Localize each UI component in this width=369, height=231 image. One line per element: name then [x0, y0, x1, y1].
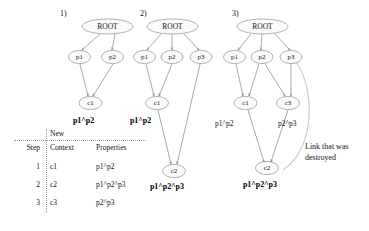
- node-p2[interactable]: p2: [161, 50, 183, 63]
- edge-root-p3: [184, 34, 199, 50]
- node-c1-label: c1: [242, 99, 249, 107]
- edge-root-p1: [147, 34, 161, 50]
- panel-2-c1-properties: p1^p2: [130, 116, 151, 125]
- panel-1-graph: ROOT p1 p2 c1: [69, 19, 134, 110]
- node-p1[interactable]: p1: [69, 50, 91, 63]
- node-root-label: ROOT: [162, 22, 183, 31]
- node-c3[interactable]: c3: [277, 96, 300, 109]
- table-cell-context: c1: [50, 162, 57, 171]
- node-p3-label: p3: [288, 53, 296, 61]
- node-c2[interactable]: c2: [256, 161, 279, 174]
- node-p2-label: p2: [259, 53, 267, 61]
- table-cell-context: c2: [50, 180, 57, 189]
- edge-root-p1: [238, 34, 251, 50]
- edge-p2-c1: [249, 64, 259, 96]
- panel-2-graph: ROOT p1 p2 p3 c1 c2: [134, 19, 213, 178]
- panel-3-c1-properties: p1^p2: [215, 119, 234, 128]
- edge-p2-c1: [93, 64, 113, 96]
- edge-p1-c1: [236, 64, 243, 96]
- edge-root-p2: [261, 34, 262, 50]
- node-p1-label: p1: [141, 53, 149, 61]
- node-p3[interactable]: p3: [280, 50, 302, 63]
- edge-c3-c2: [271, 110, 288, 162]
- node-root[interactable]: ROOT: [147, 19, 198, 34]
- node-c1-label: c1: [87, 99, 94, 107]
- edge-root-p2: [112, 34, 115, 50]
- table-header-step: Step: [14, 143, 40, 152]
- table-cell-step: 2: [14, 180, 40, 189]
- node-c2[interactable]: c2: [163, 164, 186, 177]
- node-p2[interactable]: p2: [251, 50, 273, 63]
- node-root-label: ROOT: [252, 22, 273, 31]
- node-p1-label: p1: [231, 53, 239, 61]
- node-c3-label: c3: [285, 99, 292, 107]
- node-p1-label: p1: [76, 53, 84, 61]
- graph-svg: ROOT p1 p2 c1: [0, 0, 369, 231]
- node-p2[interactable]: p2: [102, 50, 124, 63]
- node-c2-label: c2: [171, 167, 178, 175]
- edge-p1-c1: [146, 64, 154, 96]
- table-header-context: Context: [50, 143, 74, 152]
- node-c1-label: c1: [154, 99, 161, 107]
- table-horizontal-rule: [14, 140, 146, 141]
- edge-root-p3: [275, 34, 290, 50]
- node-p2-label: p2: [169, 53, 177, 61]
- edge-c1-c2: [248, 110, 264, 162]
- edge-p3-c2: [177, 64, 200, 164]
- edge-p2-c1: [159, 64, 172, 96]
- destroyed-link-callout-line2: destroyed: [305, 153, 336, 163]
- diagram-canvas: 1) 2) 3) ROOT p1: [0, 0, 369, 231]
- node-root-label: ROOT: [97, 22, 118, 31]
- table-vertical-rule: [46, 129, 47, 213]
- panel-2-c2-properties: p1^p2^p3: [150, 182, 184, 191]
- table-cell-step: 3: [14, 198, 40, 207]
- edge-p1-c1: [80, 64, 88, 96]
- node-root[interactable]: ROOT: [237, 19, 288, 34]
- panel-1-c1-properties: p1^p2: [73, 116, 94, 125]
- table-cell-step: 1: [14, 162, 40, 171]
- node-p1[interactable]: p1: [134, 50, 156, 63]
- table-cell-properties: p2^p3: [96, 198, 115, 207]
- destroyed-link-callout-line1: Link that was: [305, 142, 349, 152]
- table-cell-properties: p1^p2: [96, 162, 115, 171]
- table-cell-context: c3: [50, 198, 57, 207]
- node-c1[interactable]: c1: [234, 96, 257, 109]
- edge-p2-c3: [265, 64, 285, 96]
- node-c1[interactable]: c1: [146, 96, 169, 109]
- node-root[interactable]: ROOT: [82, 19, 133, 34]
- edge-root-p1: [82, 34, 100, 50]
- node-p3-label: p3: [198, 53, 206, 61]
- node-p1[interactable]: p1: [224, 50, 246, 63]
- edge-c1-c2: [158, 110, 171, 164]
- panel-3-c3-properties: p2^p3: [278, 119, 297, 128]
- node-c1[interactable]: c1: [79, 96, 102, 109]
- table-header-properties: Properties: [96, 143, 126, 152]
- panel-3-c2-properties: p1^p2^p3: [243, 180, 277, 189]
- node-p3[interactable]: p3: [190, 50, 212, 63]
- node-c2-label: c2: [264, 164, 271, 172]
- table-header-new: New: [50, 129, 64, 138]
- node-p2-label: p2: [109, 53, 117, 61]
- panel-3-graph: ROOT p1 p2 p3 c1 c3: [224, 19, 310, 175]
- table-cell-properties: p1^p2^p3: [96, 180, 126, 189]
